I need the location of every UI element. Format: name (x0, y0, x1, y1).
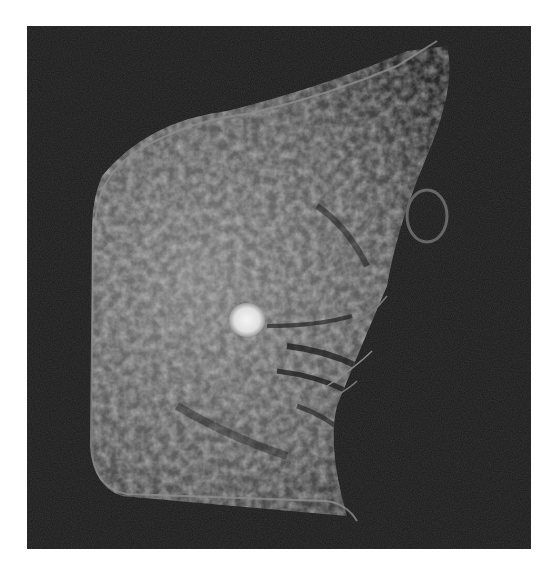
breast-mri-image (27, 26, 531, 549)
mri-scan-panel (27, 26, 531, 549)
enhancing-lesion (229, 303, 265, 337)
